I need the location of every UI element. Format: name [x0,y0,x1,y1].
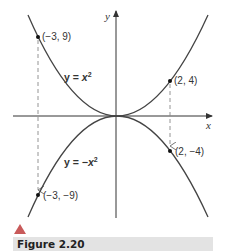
figure-caption: Figure 2.20 [17,237,85,251]
equation-lower: y = −x2 [64,156,98,168]
point-neg3-neg9 [36,193,40,197]
label-point-neg3-9: (−3, 9) [42,31,71,42]
label-point-neg3-neg9: (−3, −9) [43,190,78,201]
point-2-neg4 [168,149,172,153]
x-axis-label: x [205,119,211,131]
point-2-4 [168,79,172,83]
caption-marker-icon [14,224,26,234]
label-point-2-neg4: (2, −4) [175,146,204,157]
curve-y-equals-neg-x-squared [28,116,208,217]
y-axis-label: y [104,10,110,22]
label-point-2-4: (2, 4) [174,75,197,86]
point-neg3-9 [36,35,40,39]
parabola-reflection-diagram: x y (−3, 9) (2, 4) (2, −4) (−3, −9) y = … [0,0,231,251]
equation-upper: y = x2 [64,71,92,83]
